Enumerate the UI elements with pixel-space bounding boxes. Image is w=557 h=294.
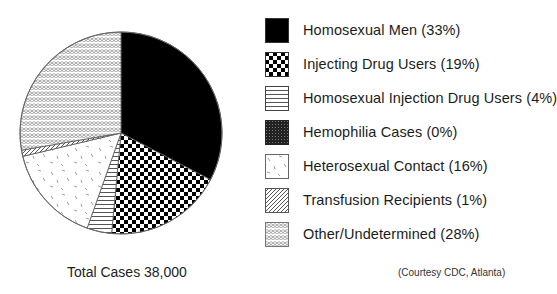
- legend-label: Transfusion Recipients (1%): [303, 192, 487, 208]
- legend-item-heterosexual-contact: Heterosexual Contact (16%): [265, 153, 488, 179]
- legend-item-transfusion-recipients: Transfusion Recipients (1%): [265, 187, 487, 213]
- legend-label: Hemophilia Cases (0%): [303, 124, 457, 140]
- pie-slice-other-undetermined: [20, 32, 121, 150]
- legend-item-injecting-drug-users: Injecting Drug Users (19%): [265, 51, 480, 77]
- legend-label: Homosexual Injection Drug Users (4%): [303, 90, 557, 106]
- legend-label: Heterosexual Contact (16%): [303, 158, 488, 174]
- horizontal-lines-swatch-icon: [265, 86, 289, 111]
- dashes-swatch-icon: [265, 154, 289, 179]
- diagonal-hatch-swatch-icon: [265, 188, 289, 213]
- legend-item-homosexual-injection-drug-users: Homosexual Injection Drug Users (4%): [265, 85, 557, 111]
- pie-slices: [20, 32, 222, 234]
- dark-stipple-swatch-icon: [265, 120, 289, 145]
- checkerboard-swatch-icon: [265, 52, 289, 77]
- scale-crosshatch-swatch-icon: [265, 222, 289, 247]
- legend-item-hemophilia-cases: Hemophilia Cases (0%): [265, 119, 457, 145]
- source-credit: (Courtesy CDC, Atlanta): [398, 267, 505, 278]
- legend-item-other-undetermined: Other/Undetermined (28%): [265, 221, 479, 247]
- legend-label: Other/Undetermined (28%): [303, 226, 479, 242]
- legend-label: Homosexual Men (33%): [303, 22, 461, 38]
- legend-item-homosexual-men: Homosexual Men (33%): [265, 17, 461, 43]
- total-cases-label: Total Cases 38,000: [67, 264, 187, 280]
- solid-black-swatch-icon: [265, 18, 289, 43]
- legend-label: Injecting Drug Users (19%): [303, 56, 480, 72]
